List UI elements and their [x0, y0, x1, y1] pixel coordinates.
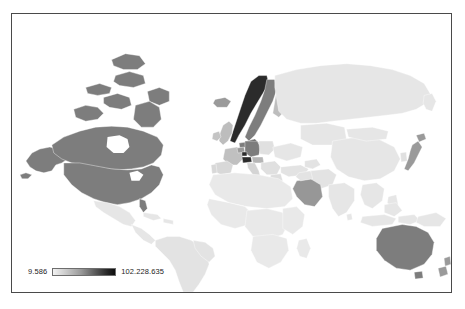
region-korea: [400, 152, 407, 162]
region-tasmania: [414, 271, 423, 279]
region-portugal: [211, 164, 217, 174]
region-luxembourg: [242, 152, 247, 156]
region-germany: [245, 141, 261, 157]
world-map-svg: [12, 14, 451, 292]
region-switzerland: [242, 157, 252, 163]
region-austria: [252, 157, 264, 163]
map-plot-frame: 9.586 102.228.635: [11, 13, 452, 293]
legend-max-label: 102.228.635: [121, 268, 164, 276]
color-scale-legend: 9.586 102.228.635: [28, 268, 164, 276]
legend-gradient-bar: [52, 268, 116, 276]
choropleth-map-figure: 9.586 102.228.635: [0, 0, 465, 309]
region-sri-lanka: [346, 214, 352, 221]
legend-min-label: 9.586: [28, 268, 47, 276]
region-new-zealand-north: [444, 256, 451, 266]
